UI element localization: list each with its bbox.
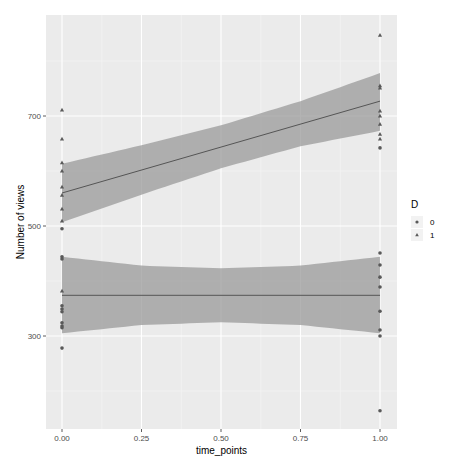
data-point-0 [378,251,382,255]
x-axis-title: time_points [196,445,247,456]
data-point-0 [378,309,382,313]
y-tick-label: 500 [28,222,42,231]
x-tick-label: 0.50 [213,434,229,443]
legend-label-0: 0 [430,218,435,227]
data-point-0 [378,275,382,279]
data-point-0 [60,227,64,231]
legend-title: D [411,199,418,210]
x-tick-label: 0.75 [293,434,309,443]
x-tick-label: 1.00 [372,434,388,443]
data-point-0 [378,285,382,289]
legend-label-1: 1 [430,231,435,240]
data-point-0 [60,304,64,308]
data-point-0 [60,346,64,350]
legend: D 01 [411,199,435,241]
data-point-0 [378,328,382,332]
data-point-0 [60,257,64,261]
x-tick-label: 0.00 [54,434,70,443]
data-point-0 [60,310,64,314]
y-axis-title: Number of views [15,185,26,259]
data-point-0 [378,263,382,267]
data-point-0 [378,409,382,413]
y-tick-label: 700 [28,112,42,121]
data-point-0 [60,321,64,325]
chart: 300500700 0.000.250.500.751.00 time_poin… [0,0,453,468]
y-tick-label: 300 [28,332,42,341]
data-point-0 [378,146,382,150]
data-point-0 [60,326,64,330]
legend-circle-icon [415,220,418,223]
x-axis: 0.000.250.500.751.00 [54,429,388,443]
y-axis: 300500700 [28,112,46,341]
data-point-0 [378,334,382,338]
x-tick-label: 0.25 [134,434,150,443]
